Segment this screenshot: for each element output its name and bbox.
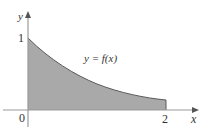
y-tick-label-1: 1 [18, 31, 24, 45]
curve-label: y = f(x) [83, 52, 117, 65]
area-under-curve-figure: y 1 0 2 x y = f(x) [0, 0, 211, 132]
y-axis-label: y [17, 10, 23, 22]
shaded-area [28, 38, 166, 110]
x-axis-label: x [190, 112, 197, 126]
x-tick-label-2: 2 [162, 112, 168, 126]
origin-label: 0 [19, 111, 25, 125]
y-axis-arrow-icon [25, 11, 31, 18]
